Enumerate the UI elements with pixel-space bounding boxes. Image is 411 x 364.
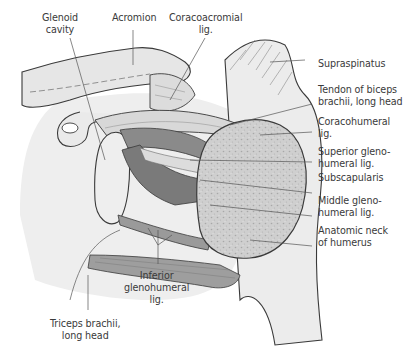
label-superior-glenohumeral-lig: Superior gleno- humeral lig.: [318, 146, 390, 170]
label-coracoacromial-lig: Coracoacromial lig.: [169, 12, 242, 36]
label-subscapularis: Subscapularis: [318, 172, 383, 184]
label-tendon-biceps-long-head: Tendon of biceps brachii, long head: [318, 84, 403, 108]
label-supraspinatus: Supraspinatus: [318, 58, 385, 70]
label-inferior-glenohumeral-lig: Inferior glenohumeral lig.: [124, 270, 189, 306]
label-triceps-brachii-long-head: Triceps brachii, long head: [50, 318, 120, 342]
label-middle-glenohumeral-lig: Middle gleno- humeral lig.: [318, 195, 382, 219]
label-acromion: Acromion: [112, 12, 156, 24]
label-anatomic-neck-humerus: Anatomic neck of humerus: [318, 225, 388, 249]
label-coracohumeral-lig: Coracohumeral lig.: [318, 116, 390, 140]
label-glenoid-cavity: Glenoid cavity: [42, 12, 78, 36]
glenoid-cavity: [95, 132, 130, 223]
